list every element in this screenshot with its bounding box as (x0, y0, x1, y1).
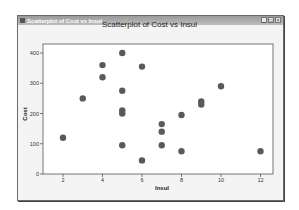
data-point (99, 74, 105, 80)
data-point (80, 95, 86, 101)
scatter-plot: 0100200300400 24681012 Insul Cost (0, 0, 299, 210)
data-point (178, 112, 184, 118)
x-tick-label: 10 (218, 177, 224, 183)
y-axis: 0100200300400 (30, 50, 43, 177)
x-axis: 24681012 (61, 174, 263, 183)
data-point (119, 50, 125, 56)
data-point (119, 110, 125, 116)
x-tick-label: 4 (101, 177, 104, 183)
y-tick-label: 200 (30, 111, 39, 117)
data-point (60, 135, 66, 141)
data-point (99, 62, 105, 68)
y-tick-label: 300 (30, 80, 39, 86)
data-point (178, 148, 184, 154)
x-tick-label: 2 (61, 177, 64, 183)
y-tick-label: 100 (30, 141, 39, 147)
data-point (218, 83, 224, 89)
plot-area (43, 44, 273, 174)
x-tick-label: 12 (257, 177, 263, 183)
y-tick-label: 400 (30, 50, 39, 56)
data-point (198, 101, 204, 107)
data-point (119, 142, 125, 148)
data-point (159, 121, 165, 127)
data-point (139, 63, 145, 69)
x-tick-label: 8 (180, 177, 183, 183)
x-tick-label: 6 (140, 177, 143, 183)
y-axis-label: Cost (22, 107, 28, 120)
data-point (257, 148, 263, 154)
data-point (159, 142, 165, 148)
data-point (159, 128, 165, 134)
data-point (139, 157, 145, 163)
x-axis-label: Insul (155, 185, 169, 191)
y-tick-label: 0 (36, 171, 39, 177)
data-point (119, 88, 125, 94)
